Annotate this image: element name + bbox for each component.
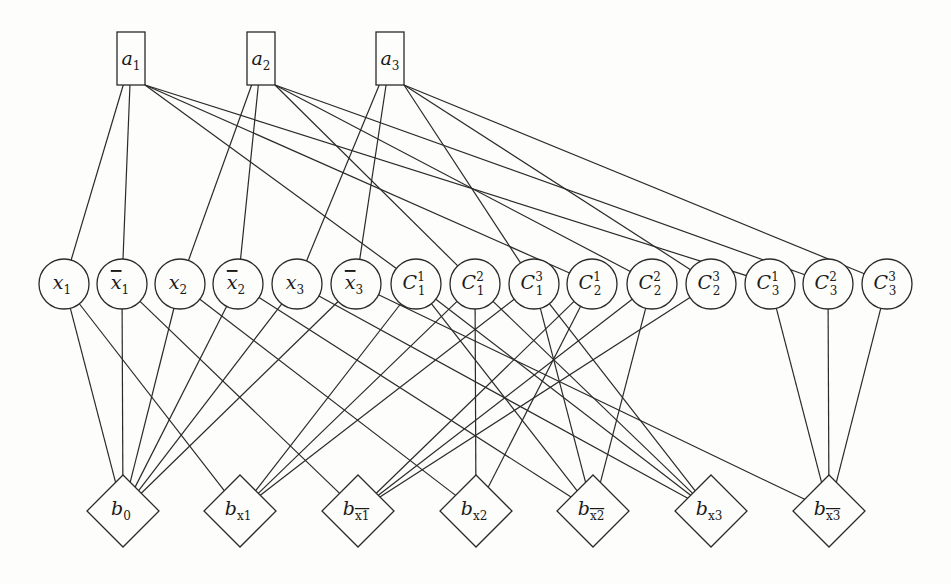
edge-C12-bx2 [475, 309, 476, 475]
node-nx2: x2 [213, 259, 263, 309]
edge-x1-b0 [70, 308, 115, 482]
edge-C11-bx3 [436, 299, 691, 495]
edge-a3-x3 [307, 85, 380, 261]
edge-C23-bnx1 [380, 298, 690, 497]
edge-C12-bx1 [258, 301, 457, 493]
node-bnx2: bx2 [557, 475, 629, 547]
node-nx1: x1 [97, 259, 147, 309]
node-bx1: bx1 [204, 475, 276, 547]
node-C13: C31 [509, 259, 559, 309]
edge-C31-bnx3 [776, 308, 821, 482]
edge-a2-x2 [188, 85, 251, 260]
edge-C33-bnx3 [836, 308, 880, 482]
edge-x3-b0 [139, 304, 282, 491]
node-C11: C11 [391, 259, 441, 309]
edge-a3-C23 [404, 85, 691, 270]
edge-nx1-b0 [122, 309, 123, 475]
edge-C22-bnx2 [600, 308, 645, 482]
node-C32: C23 [803, 259, 853, 309]
edge-a1-x1 [71, 85, 123, 260]
edge-C11-bx1 [256, 304, 401, 491]
edge-x3-bx3 [319, 296, 688, 498]
node-C23: C32 [686, 259, 736, 309]
edge-C11-bnx2 [431, 304, 577, 491]
node-C33: C33 [862, 259, 912, 309]
edge-a3-C33 [404, 85, 864, 274]
node-bx2: bx2 [440, 475, 512, 547]
edge-a1-C21 [145, 85, 570, 273]
node-a2: a2 [247, 32, 275, 85]
edge-C22-bnx1 [378, 299, 632, 495]
node-bnx3: bx3 [793, 475, 865, 547]
edge-C13-bnx2 [540, 308, 585, 482]
edge-nx3-bnx3 [379, 295, 805, 500]
node-x2: x2 [155, 259, 205, 309]
edge-nx2-b0 [135, 306, 227, 487]
node-C22: C22 [627, 259, 677, 309]
edge-a2-C22 [275, 85, 630, 272]
node-a3: a3 [376, 32, 404, 85]
node-C31: C13 [745, 259, 795, 309]
node-nx3: x3 [331, 259, 381, 309]
edge-a1-nx1 [123, 85, 130, 259]
edge-x1-bx1 [79, 304, 224, 491]
node-x1: x1 [39, 259, 89, 309]
node-bx3: bx3 [675, 475, 747, 547]
edge-a1-C11 [145, 85, 396, 269]
edge-x2-b0 [130, 308, 174, 482]
reduction-graph: a1a2a3x1x1x2x2x3x3C11C21C31C12C22C32C13C… [0, 0, 951, 584]
edge-a2-C32 [275, 85, 805, 275]
node-C12: C21 [450, 259, 500, 309]
edge-a3-C13 [404, 85, 521, 263]
node-C21: C12 [567, 259, 617, 309]
edge-C32-bnx3 [828, 309, 829, 475]
node-a1: a1 [117, 32, 145, 85]
edge-a2-nx2 [241, 85, 259, 259]
node-x3: x3 [272, 259, 322, 309]
